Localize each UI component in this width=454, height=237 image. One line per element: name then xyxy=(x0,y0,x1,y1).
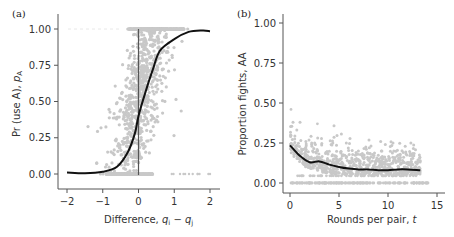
data-point xyxy=(126,158,129,161)
data-point xyxy=(292,121,295,124)
data-point xyxy=(140,66,143,69)
data-point xyxy=(151,86,154,89)
figure: (a) 0.000.250.500.751.00 −2−1012 Differe… xyxy=(0,0,454,237)
data-point xyxy=(159,27,162,30)
data-point xyxy=(165,36,168,39)
data-point xyxy=(299,139,302,142)
data-point xyxy=(414,161,417,164)
data-point xyxy=(107,166,110,169)
data-point xyxy=(126,49,129,52)
data-point xyxy=(391,174,394,177)
data-point xyxy=(160,90,163,93)
data-point xyxy=(198,173,200,175)
data-point xyxy=(139,129,142,132)
data-point xyxy=(107,108,110,111)
data-point xyxy=(392,160,395,163)
data-point xyxy=(142,147,145,150)
x-tick-label: −1 xyxy=(95,196,110,207)
data-point xyxy=(123,113,126,116)
data-point xyxy=(147,98,150,101)
data-point xyxy=(126,116,129,119)
data-point xyxy=(153,103,156,106)
data-point xyxy=(310,167,313,170)
data-point xyxy=(133,57,136,60)
data-point xyxy=(384,174,387,177)
data-point xyxy=(384,163,387,166)
data-point xyxy=(156,36,159,39)
data-point xyxy=(140,136,143,139)
data-point xyxy=(133,54,136,57)
data-point xyxy=(145,140,148,143)
data-point xyxy=(346,182,349,185)
data-point xyxy=(165,61,168,64)
data-point xyxy=(156,107,159,110)
data-point xyxy=(388,159,391,162)
data-point xyxy=(143,59,146,62)
data-point xyxy=(353,164,356,167)
data-point xyxy=(142,142,145,145)
data-point xyxy=(341,164,344,167)
data-point xyxy=(402,156,405,159)
data-point xyxy=(409,174,412,177)
data-point xyxy=(312,164,315,167)
data-point xyxy=(368,139,371,142)
data-point xyxy=(312,157,315,160)
data-point xyxy=(155,91,158,94)
data-point xyxy=(358,165,361,168)
panel-b-scatter-points xyxy=(289,108,430,184)
data-point xyxy=(161,40,164,43)
data-point xyxy=(355,171,358,174)
data-point xyxy=(340,174,343,177)
data-point xyxy=(174,98,177,101)
y-tick-label: 0.25 xyxy=(254,138,276,149)
data-point xyxy=(111,172,114,175)
y-tick-label: 0.25 xyxy=(29,132,51,143)
panel-b-label: (b) xyxy=(237,8,251,19)
data-point xyxy=(380,150,383,153)
data-point xyxy=(336,182,339,185)
data-point xyxy=(115,117,118,120)
data-point xyxy=(156,66,159,69)
data-point xyxy=(159,79,162,82)
data-point xyxy=(86,125,89,128)
data-point xyxy=(119,149,122,152)
data-point xyxy=(372,182,375,185)
data-point xyxy=(327,182,330,185)
data-point xyxy=(295,129,298,132)
data-point xyxy=(144,79,147,82)
data-point xyxy=(338,172,341,175)
data-point xyxy=(330,174,333,177)
data-point xyxy=(161,99,164,102)
data-point xyxy=(167,70,170,73)
data-point xyxy=(321,182,324,185)
data-point xyxy=(161,51,164,54)
data-point xyxy=(172,46,175,49)
data-point xyxy=(342,154,345,157)
data-point xyxy=(309,174,312,177)
data-point xyxy=(165,85,168,88)
data-point xyxy=(373,174,376,177)
data-point xyxy=(124,106,127,109)
data-point xyxy=(122,143,125,146)
data-point xyxy=(131,122,134,125)
data-point xyxy=(366,152,369,155)
data-point xyxy=(143,112,146,115)
data-point xyxy=(152,50,155,53)
y-tick-label: 1.00 xyxy=(254,18,276,29)
data-point xyxy=(299,151,302,154)
data-point xyxy=(418,156,421,159)
data-point xyxy=(330,144,333,147)
data-point xyxy=(324,152,327,155)
data-point xyxy=(378,157,381,160)
data-point xyxy=(312,150,315,153)
data-point xyxy=(401,161,404,164)
data-point xyxy=(289,131,292,134)
data-point xyxy=(116,150,119,153)
data-point xyxy=(425,182,428,185)
data-point xyxy=(399,153,402,156)
data-point xyxy=(304,140,307,143)
data-point xyxy=(144,117,147,120)
data-point xyxy=(151,117,154,120)
data-point xyxy=(413,166,416,169)
data-point xyxy=(404,151,407,154)
